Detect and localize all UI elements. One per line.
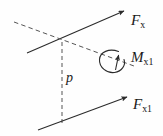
force-bottom-subscript: x1 xyxy=(142,103,152,114)
force-bottom-label: Fx1 xyxy=(133,97,152,112)
distance-label: p xyxy=(66,71,73,85)
force-top-subscript: x xyxy=(140,19,145,30)
force-vector-top-line xyxy=(27,11,124,53)
moment-subscript: x1 xyxy=(144,56,154,67)
force-vector-bottom-line xyxy=(38,97,127,130)
force-top-label: Fx xyxy=(131,13,145,28)
moment-axis-line xyxy=(14,22,134,66)
moment-label: Mx1 xyxy=(131,50,153,65)
force-couple-diagram: Fx Mx1 Fx1 p xyxy=(0,0,163,136)
moment-arrowhead xyxy=(116,55,119,70)
moment-arc-icon xyxy=(99,50,124,72)
